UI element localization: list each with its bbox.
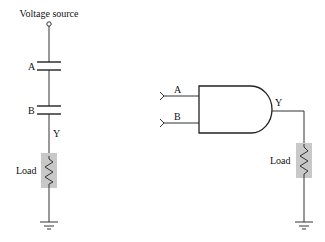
input-a-label: A — [174, 84, 182, 95]
voltage-source-terminal-icon — [47, 22, 51, 26]
voltage-source-label: Voltage source — [20, 8, 80, 19]
input-a-arrow-icon — [160, 92, 164, 100]
series-switch-circuit: Voltage source A B Y Load — [16, 8, 79, 229]
switch-b-label: B — [28, 105, 35, 116]
load-resistor: Load — [270, 143, 312, 178]
circuit-diagram: Voltage source A B Y Load — [0, 0, 325, 242]
load-label: Load — [16, 165, 37, 176]
load-resistor: Load — [16, 153, 57, 188]
switch-a-label: A — [28, 61, 36, 72]
switch-a: A — [28, 61, 61, 72]
load-label: Load — [270, 155, 291, 166]
input-b-label: B — [174, 111, 181, 122]
and-gate-icon — [199, 86, 272, 133]
output-y-label: Y — [53, 128, 60, 139]
output-y-label: Y — [275, 97, 282, 108]
ground-icon — [40, 222, 58, 229]
and-gate-circuit: A B Y Load — [160, 84, 313, 229]
ground-icon — [295, 222, 313, 229]
switch-b: B — [28, 105, 61, 116]
load-box — [296, 143, 312, 178]
input-b-arrow-icon — [160, 119, 164, 127]
